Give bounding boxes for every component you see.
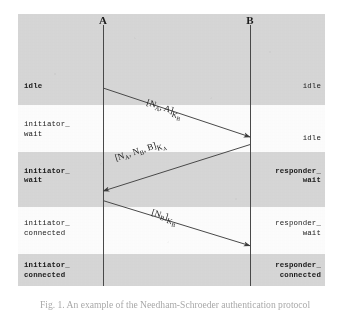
sequence-diagram: AB idleinitiator_ waitinitiator_ waitini… — [18, 14, 325, 286]
msg-3-arrow — [103, 201, 250, 246]
figure-caption-text: Fig. 1. An example of the Needham-Schroe… — [40, 299, 310, 310]
message-arrow-layer — [18, 14, 325, 286]
figure-caption: Fig. 1. An example of the Needham-Schroe… — [20, 299, 330, 313]
page-root: AB idleinitiator_ waitinitiator_ waitini… — [0, 0, 343, 313]
